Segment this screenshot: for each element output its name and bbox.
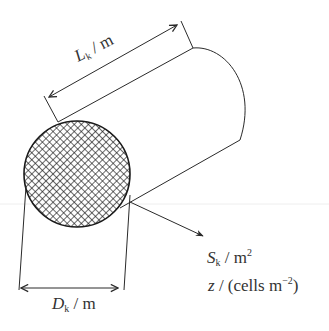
cylinder-front-face: [24, 121, 130, 227]
diameter-label: Dk / m: [51, 294, 96, 314]
cylinder-end-arc: [193, 48, 245, 140]
length-extension-right: [181, 21, 193, 48]
cell-density-label: z / (cells m−2): [207, 275, 298, 295]
length-label: Lk / m: [70, 30, 116, 67]
cylinder-diagram: Lk / m Dk / m Sk / m2 z / (cells m−2): [0, 0, 329, 331]
diameter-extension-right: [124, 195, 130, 290]
diameter-extension-left: [19, 186, 26, 290]
cylinder-bottom-edge: [120, 140, 240, 208]
area-pointer-arrow: [130, 202, 203, 236]
length-dimension: [44, 21, 193, 122]
length-arrow: [49, 25, 177, 97]
length-extension-left: [44, 96, 58, 122]
area-label: Sk / m2: [207, 247, 252, 268]
